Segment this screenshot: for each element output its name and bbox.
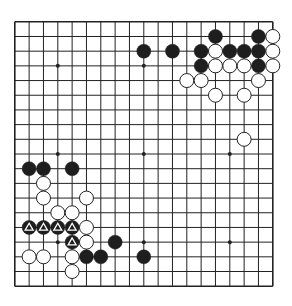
star-point — [228, 152, 232, 156]
go-board — [0, 0, 292, 306]
white-stone — [223, 59, 237, 73]
black-stone — [251, 29, 265, 43]
black-stone — [137, 250, 151, 264]
white-stone — [180, 74, 194, 88]
star-point — [142, 64, 146, 68]
star-point — [142, 240, 146, 244]
white-stone — [208, 59, 222, 73]
star-point — [142, 152, 146, 156]
white-stone — [36, 250, 50, 264]
star-point — [228, 240, 232, 244]
black-stone — [194, 44, 208, 58]
white-stone — [22, 250, 36, 264]
black-stone — [65, 162, 79, 176]
white-stone — [237, 59, 251, 73]
black-stone — [194, 59, 208, 73]
white-stone — [266, 59, 280, 73]
black-stone — [237, 44, 251, 58]
white-stone — [237, 88, 251, 102]
white-stone — [65, 206, 79, 220]
white-stone — [237, 132, 251, 146]
white-stone — [65, 250, 79, 264]
black-stone — [108, 235, 122, 249]
white-stone — [65, 265, 79, 279]
black-stone — [22, 162, 36, 176]
white-stone — [208, 88, 222, 102]
white-stone — [36, 191, 50, 205]
white-stone — [194, 74, 208, 88]
star-point — [56, 64, 60, 68]
white-stone — [266, 44, 280, 58]
white-stone — [79, 235, 93, 249]
white-stone — [36, 176, 50, 190]
white-stone — [51, 206, 65, 220]
black-stone — [208, 29, 222, 43]
black-stone — [251, 59, 265, 73]
star-point — [56, 152, 60, 156]
black-stone — [223, 44, 237, 58]
black-stone — [165, 44, 179, 58]
black-stone — [251, 44, 265, 58]
black-stone — [36, 162, 50, 176]
black-stone — [94, 250, 108, 264]
star-point — [56, 240, 60, 244]
white-stone — [266, 29, 280, 43]
black-stone — [137, 44, 151, 58]
white-stone — [208, 44, 222, 58]
white-stone — [79, 220, 93, 234]
white-stone — [251, 74, 265, 88]
white-stone — [79, 191, 93, 205]
black-stone — [79, 250, 93, 264]
